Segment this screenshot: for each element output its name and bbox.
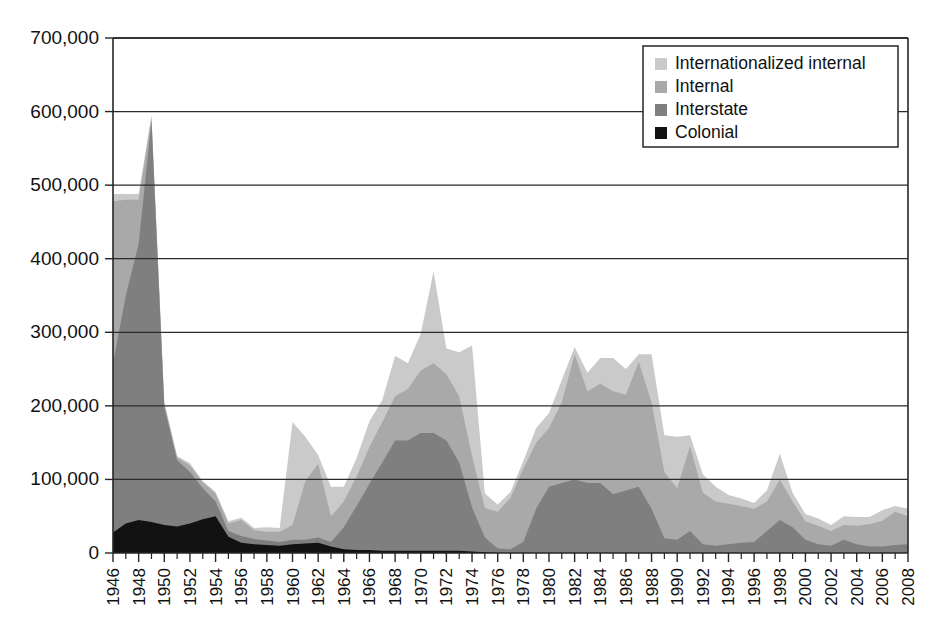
x-tick-label: 2000 bbox=[796, 568, 815, 606]
chart-legend: Internationalized internalInternalInters… bbox=[643, 46, 898, 147]
legend-label-colonial: Colonial bbox=[675, 122, 738, 142]
legend-label-interstate: Interstate bbox=[675, 99, 748, 119]
area-series-internationalized-internal bbox=[113, 115, 908, 553]
x-tick-label: 1986 bbox=[617, 568, 636, 606]
x-tick-label: 1946 bbox=[104, 568, 123, 606]
x-axis-tick-labels: 1946194819501952195419561958196019621964… bbox=[104, 553, 918, 606]
x-tick-label: 1982 bbox=[566, 568, 585, 606]
x-tick-label: 1964 bbox=[335, 568, 354, 606]
x-tick-label: 1950 bbox=[155, 568, 174, 606]
x-tick-label: 2004 bbox=[848, 568, 867, 606]
x-tick-label: 1966 bbox=[360, 568, 379, 606]
x-tick-label: 1996 bbox=[745, 568, 764, 606]
x-tick-label: 1980 bbox=[540, 568, 559, 606]
x-tick-label: 1984 bbox=[591, 568, 610, 606]
y-tick-label: 700,000 bbox=[30, 27, 99, 48]
y-tick-label: 300,000 bbox=[30, 321, 99, 342]
x-tick-label: 1960 bbox=[284, 568, 303, 606]
x-tick-label: 1968 bbox=[386, 568, 405, 606]
y-tick-label: 500,000 bbox=[30, 174, 99, 195]
x-tick-label: 1974 bbox=[463, 568, 482, 606]
x-tick-label: 1952 bbox=[181, 568, 200, 606]
y-tick-label: 0 bbox=[88, 542, 99, 563]
chart-container: 0100,000200,000300,000400,000500,000600,… bbox=[0, 0, 937, 636]
x-tick-label: 1988 bbox=[643, 568, 662, 606]
x-tick-label: 2006 bbox=[873, 568, 892, 606]
chart-areas-group bbox=[113, 115, 908, 553]
stacked-area-chart: 0100,000200,000300,000400,000500,000600,… bbox=[0, 0, 937, 636]
legend-swatch-internationalized-internal bbox=[655, 58, 667, 70]
x-tick-label: 1948 bbox=[130, 568, 149, 606]
legend-label-internal: Internal bbox=[675, 76, 733, 96]
x-tick-label: 1958 bbox=[258, 568, 277, 606]
legend-swatch-colonial bbox=[655, 127, 667, 139]
x-tick-label: 2002 bbox=[822, 568, 841, 606]
x-tick-label: 1954 bbox=[207, 568, 226, 606]
x-tick-label: 1956 bbox=[232, 568, 251, 606]
x-tick-label: 1978 bbox=[514, 568, 533, 606]
x-tick-label: 1976 bbox=[489, 568, 508, 606]
legend-swatch-internal bbox=[655, 81, 667, 93]
x-tick-label: 1972 bbox=[437, 568, 456, 606]
y-tick-label: 400,000 bbox=[30, 248, 99, 269]
legend-swatch-interstate bbox=[655, 104, 667, 116]
x-tick-label: 1998 bbox=[771, 568, 790, 606]
y-tick-label: 100,000 bbox=[30, 468, 99, 489]
x-tick-label: 1962 bbox=[309, 568, 328, 606]
y-tick-label: 600,000 bbox=[30, 101, 99, 122]
x-tick-label: 1992 bbox=[694, 568, 713, 606]
y-axis-tick-labels: 0100,000200,000300,000400,000500,000600,… bbox=[30, 27, 113, 563]
x-tick-label: 1990 bbox=[668, 568, 687, 606]
x-tick-label: 1970 bbox=[412, 568, 431, 606]
legend-label-internationalized-internal: Internationalized internal bbox=[675, 53, 866, 73]
y-tick-label: 200,000 bbox=[30, 395, 99, 416]
x-tick-label: 1994 bbox=[719, 568, 738, 606]
x-tick-label: 2008 bbox=[899, 568, 918, 606]
